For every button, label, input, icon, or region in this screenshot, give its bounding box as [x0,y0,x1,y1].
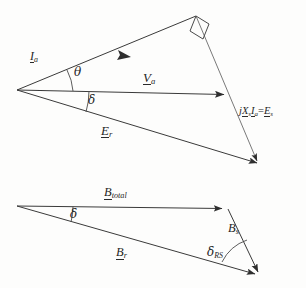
label-angle-delta-bottom: δ [70,208,77,220]
label-total-flux: Btotal [104,186,127,201]
label-armature-current: Ia [30,50,38,64]
vector-br-line [17,206,255,274]
vector-ia-line [17,16,196,90]
angle-delta-rs-arc [222,240,247,262]
right-angle-marker-icon [190,16,209,39]
diagram-canvas [0,0,306,288]
label-rotor-flux: Br [116,246,127,261]
label-angle-delta-top: δ [88,94,95,106]
phasor-diagram-figure: Ia θ Va δ Er jXsIa=Es Btotal δ Bs δRS Br [0,0,306,288]
label-resultant-emf: Er [101,124,112,139]
vector-er-line [17,90,257,163]
label-terminal-voltage: Va [143,71,155,86]
vector-btotal-line [17,206,222,209]
label-reactance-drop: jXsIa=Es [239,106,273,118]
label-angle-theta: θ [74,66,81,78]
top-diagram-group [17,16,257,163]
label-stator-flux: Bs [228,222,239,237]
vector-ia-arrowhead [117,50,131,60]
vector-jxsia-line [196,16,257,161]
vector-bs-line [228,209,258,272]
label-angle-delta-rs: δRS [207,246,223,260]
bottom-diagram-group [17,206,258,274]
angle-theta-arc [67,70,73,91]
vector-va-line [17,90,224,95]
